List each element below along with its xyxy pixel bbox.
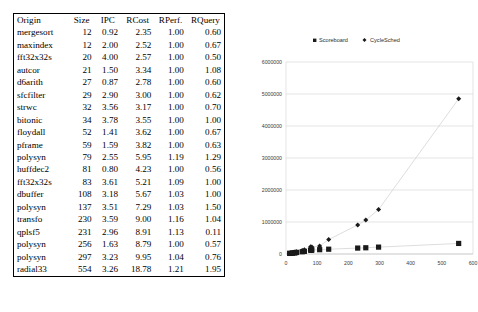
- y-tick-label: 6000000: [262, 59, 282, 65]
- y-tick-label: 0: [279, 251, 282, 257]
- cell-size: 29: [69, 89, 95, 101]
- column-header-rquery: RQuery: [187, 14, 225, 27]
- cell-ipc: 2.55: [95, 151, 121, 163]
- data-point-scoreboard: [363, 245, 368, 250]
- cell-rquery: 1.95: [187, 263, 225, 276]
- cell-ipc: 2.00: [95, 39, 121, 51]
- cell-rcost: 9.00: [121, 213, 154, 225]
- cell-origin: fft32x32s: [14, 176, 69, 188]
- cell-ipc: 1.59: [95, 139, 121, 151]
- cell-size: 297: [69, 251, 95, 263]
- cell-rcost: 5.21: [121, 176, 154, 188]
- cell-origin: qplsf5: [14, 226, 69, 238]
- cell-size: 21: [69, 64, 95, 76]
- cell-rcost: 2.52: [121, 39, 154, 51]
- cell-size: 27: [69, 76, 95, 88]
- cell-size: 59: [69, 139, 95, 151]
- table-body: mergesort120.922.351.000.60maxindex122.0…: [14, 26, 225, 276]
- table-row: mergesort120.922.351.000.60: [14, 26, 225, 38]
- cell-origin: floydall: [14, 126, 69, 138]
- cell-rcost: 4.23: [121, 163, 154, 175]
- cell-rquery: 0.60: [187, 76, 225, 88]
- legend-marker-scoreboard: [313, 39, 316, 42]
- cell-ipc: 0.92: [95, 26, 121, 38]
- cell-ipc: 2.96: [95, 226, 121, 238]
- cell-rperf: 1.00: [154, 64, 186, 76]
- cell-origin: radial33: [14, 263, 69, 276]
- x-tick-label: 500: [438, 260, 447, 266]
- cell-rquery: 1.04: [187, 213, 225, 225]
- cell-rquery: 0.67: [187, 39, 225, 51]
- table-header: Origin Size IPC RCost RPerf. RQuery: [14, 14, 225, 27]
- cell-rperf: 1.00: [154, 39, 186, 51]
- cell-rcost: 3.34: [121, 64, 154, 76]
- cell-origin: autcor: [14, 64, 69, 76]
- cell-origin: mergesort: [14, 26, 69, 38]
- y-tick-label: 5000000: [262, 91, 282, 97]
- table-row: bitonic343.783.551.001.00: [14, 114, 225, 126]
- cell-rcost: 5.67: [121, 188, 154, 200]
- y-axis-tick-labels: 0100000020000003000000400000050000006000…: [262, 59, 282, 257]
- cell-size: 20: [69, 51, 95, 63]
- cell-ipc: 3.59: [95, 213, 121, 225]
- chart-trendlines: [290, 99, 459, 254]
- table-row: strwc323.563.171.000.70: [14, 101, 225, 113]
- x-tick-label: 0: [285, 260, 288, 266]
- table-row: autcor211.503.341.001.08: [14, 64, 225, 76]
- scatter-chart: 0100000020000003000000400000050000006000…: [240, 0, 478, 312]
- cell-rcost: 9.95: [121, 251, 154, 263]
- cell-origin: maxindex: [14, 39, 69, 51]
- cell-rperf: 1.09: [154, 176, 186, 188]
- cell-origin: polysyn: [14, 238, 69, 250]
- table-row: transfo2303.599.001.161.04: [14, 213, 225, 225]
- x-tick-label: 600: [469, 260, 478, 266]
- cell-rquery: 0.11: [187, 226, 225, 238]
- x-tick-label: 100: [313, 260, 322, 266]
- y-tick-label: 2000000: [262, 187, 282, 193]
- cell-rquery: 0.62: [187, 89, 225, 101]
- table-row: dbuffer1083.185.671.031.00: [14, 188, 225, 200]
- scatter-chart-panel: 0100000020000003000000400000050000006000…: [240, 0, 478, 312]
- cell-rcost: 2.35: [121, 26, 154, 38]
- data-point-cyclesched: [456, 96, 461, 101]
- cell-rcost: 3.55: [121, 114, 154, 126]
- table-row: polysyn2561.638.791.000.57: [14, 238, 225, 250]
- cell-rcost: 2.57: [121, 51, 154, 63]
- cell-ipc: 3.18: [95, 188, 121, 200]
- table-header-row: Origin Size IPC RCost RPerf. RQuery: [14, 14, 225, 27]
- cell-rcost: 3.17: [121, 101, 154, 113]
- table-row: floydall521.413.621.000.67: [14, 126, 225, 138]
- cell-rquery: 0.76: [187, 251, 225, 263]
- trendline-scoreboard: [290, 243, 459, 253]
- cell-size: 32: [69, 101, 95, 113]
- figure-root: Origin Size IPC RCost RPerf. RQuery merg…: [0, 0, 478, 312]
- cell-rcost: 3.82: [121, 139, 154, 151]
- cell-rquery: 0.70: [187, 101, 225, 113]
- cell-rperf: 1.03: [154, 201, 186, 213]
- cell-rquery: 0.63: [187, 139, 225, 151]
- table-row: qplsf52312.968.911.130.11: [14, 226, 225, 238]
- cell-origin: polysyn: [14, 151, 69, 163]
- legend-marker-cyclesched: [363, 38, 367, 42]
- cell-rperf: 1.03: [154, 188, 186, 200]
- benchmark-table-panel: Origin Size IPC RCost RPerf. RQuery merg…: [13, 13, 225, 277]
- y-tick-label: 3000000: [262, 155, 282, 161]
- table-row: fft32x32s204.002.571.000.50: [14, 51, 225, 63]
- cell-rperf: 1.00: [154, 51, 186, 63]
- cell-size: 256: [69, 238, 95, 250]
- cell-size: 34: [69, 114, 95, 126]
- cell-ipc: 1.41: [95, 126, 121, 138]
- cell-rperf: 1.00: [154, 89, 186, 101]
- x-tick-label: 200: [344, 260, 353, 266]
- y-tick-label: 4000000: [262, 123, 282, 129]
- cell-size: 79: [69, 151, 95, 163]
- y-tick-label: 1000000: [262, 219, 282, 225]
- cell-rcost: 18.78: [121, 263, 154, 276]
- chart-data-points: [287, 96, 461, 256]
- column-header-ipc: IPC: [95, 14, 121, 27]
- legend-label-scoreboard: Scoreboard: [319, 37, 348, 43]
- cell-rcost: 8.79: [121, 238, 154, 250]
- table-row: radial335543.2618.781.211.95: [14, 263, 225, 276]
- cell-size: 230: [69, 213, 95, 225]
- column-header-size: Size: [69, 14, 95, 27]
